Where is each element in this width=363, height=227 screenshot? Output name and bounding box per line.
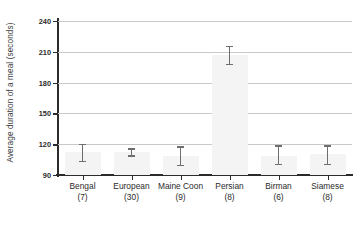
y-axis-tick-label: 90 [31,171,51,180]
error-bar-cap-upper [226,46,233,47]
x-axis-tick-mark [132,176,133,180]
error-bar-cap-upper [128,148,135,149]
x-axis-category-label: Bengal(7) [58,181,107,202]
error-bar-stem [278,145,279,163]
category-name: Persian [205,181,254,192]
error-bar-cap-upper [79,144,86,145]
y-axis-tick-label: 120 [31,140,51,149]
error-bar-cap-upper [275,145,282,146]
x-axis-tick-mark [181,176,182,180]
y-axis-tick-label: 240 [31,17,51,26]
y-axis-tick-mark [53,21,57,22]
x-axis-tick-mark [328,176,329,180]
x-axis-category-label: Birman(6) [254,181,303,202]
plot-area [58,21,352,175]
bar [212,55,248,175]
y-axis-tick-mark [53,175,57,176]
x-axis-category-label: Siamese(8) [303,181,352,202]
x-axis-category-label: Persian(8) [205,181,254,202]
error-bar-cap-lower [226,64,233,65]
category-sample-size: (6) [254,192,303,203]
error-bar-stem [180,146,181,164]
error-bar-cap-upper [177,146,184,147]
category-sample-size: (30) [107,192,156,203]
category-sample-size: (9) [156,192,205,203]
error-bar-cap-lower [324,164,331,165]
error-bar-cap-lower [79,161,86,162]
x-axis-tick-mark [279,176,280,180]
y-axis-tick-label: 210 [31,47,51,56]
category-sample-size: (8) [205,192,254,203]
gridline [58,52,352,53]
category-sample-size: (8) [303,192,352,203]
x-axis-tick-mark [83,176,84,180]
error-bar-stem [82,144,83,160]
category-sample-size: (7) [58,192,107,203]
y-axis-title: Average duration of a meal (seconds) [0,0,20,185]
gridline [58,83,352,84]
category-name: Birman [254,181,303,192]
gridline [58,113,352,114]
category-name: Siamese [303,181,352,192]
gridline [58,21,352,22]
y-axis-tick-mark [53,144,57,145]
y-axis-tick-label: 150 [31,109,51,118]
y-axis-tick-label: 180 [31,78,51,87]
error-bar-cap-lower [128,155,135,156]
x-axis-category-label: European(30) [107,181,156,202]
y-axis-tick-mark [53,83,57,84]
y-axis-title-text: Average duration of a meal (seconds) [6,23,15,163]
category-name: Maine Coon [156,181,205,192]
category-name: European [107,181,156,192]
error-bar-cap-lower [177,165,184,166]
gridline [58,144,352,145]
error-bar-stem [229,46,230,64]
error-bar-cap-upper [324,145,331,146]
x-axis-tick-mark [230,176,231,180]
y-axis-tick-mark [53,113,57,114]
error-bar-cap-lower [275,164,282,165]
y-axis-tick-mark [53,52,57,53]
category-name: Bengal [58,181,107,192]
x-axis-category-label: Maine Coon(9) [156,181,205,202]
y-axis-tick-labels: 90120150180210240 [28,0,51,227]
chart-screenshot: Average duration of a meal (seconds) 901… [0,0,363,227]
error-bar-stem [327,145,328,163]
